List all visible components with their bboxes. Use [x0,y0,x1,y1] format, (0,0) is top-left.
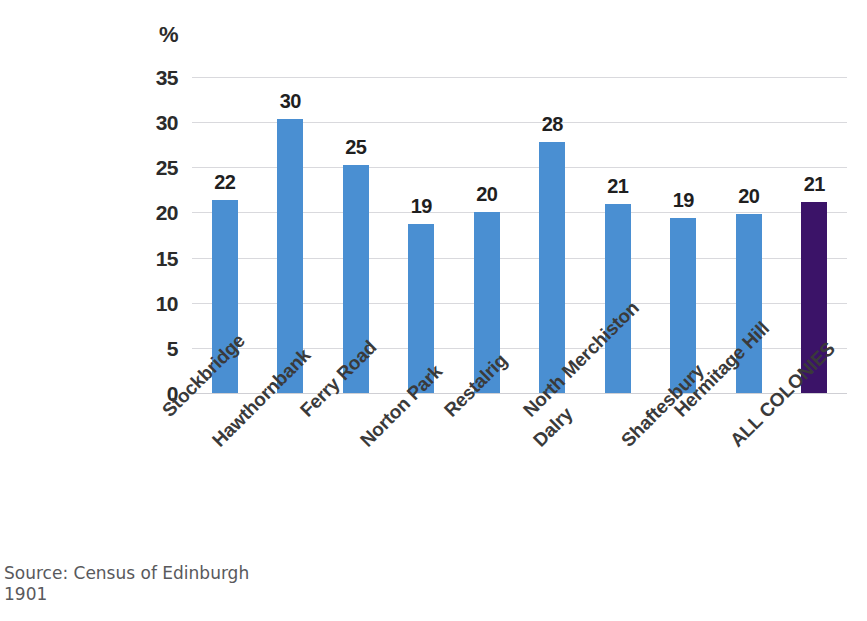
bar-value-label: 21 [782,173,848,196]
bar-group: 21 [782,77,848,393]
bar[interactable] [539,142,565,393]
bar-group: 28 [520,77,586,393]
bar-value-label: 30 [258,90,324,113]
y-axis-tick-20: 20 [108,202,178,223]
bar-value-label: 20 [454,183,520,206]
bar-value-label: 25 [323,136,389,159]
x-axis-category-labels: StockbridgeHawthornbankFerry RoadNorton … [192,400,847,570]
source-note: Source: Census of Edinburgh 1901 [4,563,249,604]
y-axis-tick-15: 15 [108,247,178,268]
y-axis-tick-25: 25 [108,157,178,178]
gridline [192,393,847,394]
y-axis-unit-label: % [118,22,178,48]
y-axis-tick-30: 30 [108,112,178,133]
bar-value-label: 19 [389,195,455,218]
bar-chart: % 05101520253035 22302519202821192021 St… [0,0,867,621]
bar-value-label: 28 [520,113,586,136]
y-axis-tick-5: 5 [108,337,178,358]
bar-value-label: 22 [192,171,258,194]
y-axis-tick-35: 35 [108,67,178,88]
bar-group: 19 [389,77,455,393]
bar-group: 19 [651,77,717,393]
bar-group: 30 [258,77,324,393]
y-axis-tick-10: 10 [108,292,178,313]
bar-value-label: 20 [716,185,782,208]
bar-group: 20 [454,77,520,393]
bar-value-label: 21 [585,175,651,198]
bar-value-label: 19 [651,189,717,212]
